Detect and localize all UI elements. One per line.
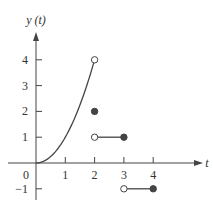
open-endpoint-marker bbox=[91, 134, 97, 140]
y-tick-label: 3 bbox=[22, 79, 28, 93]
open-endpoint-marker bbox=[91, 57, 97, 63]
x-tick-label: 1 bbox=[62, 168, 68, 182]
open-endpoint-marker bbox=[121, 186, 127, 192]
x-axis-arrow-icon bbox=[194, 160, 203, 166]
y-axis-arrow-icon bbox=[33, 32, 39, 41]
isolated-point-marker bbox=[91, 108, 97, 114]
x-axis-title: t bbox=[205, 156, 209, 170]
axes bbox=[8, 32, 203, 200]
y-tick-label: 2 bbox=[22, 104, 28, 118]
x-tick-label: 0 bbox=[23, 168, 29, 182]
x-tick-label: 3 bbox=[121, 168, 127, 182]
x-tick-label: 4 bbox=[150, 168, 156, 182]
filled-endpoint-marker bbox=[150, 186, 156, 192]
y-tick-label: 1 bbox=[22, 130, 28, 144]
y-axis-title: y (t) bbox=[25, 13, 46, 27]
piecewise-function-chart: 01234−11234y (t)t bbox=[0, 0, 213, 207]
x-tick-label: 2 bbox=[92, 168, 98, 182]
parabola-curve bbox=[36, 60, 95, 163]
filled-endpoint-marker bbox=[121, 134, 127, 140]
y-tick-label: −1 bbox=[15, 182, 28, 196]
labels: 01234−11234y (t)t bbox=[15, 13, 209, 196]
y-tick-label: 4 bbox=[22, 53, 28, 67]
